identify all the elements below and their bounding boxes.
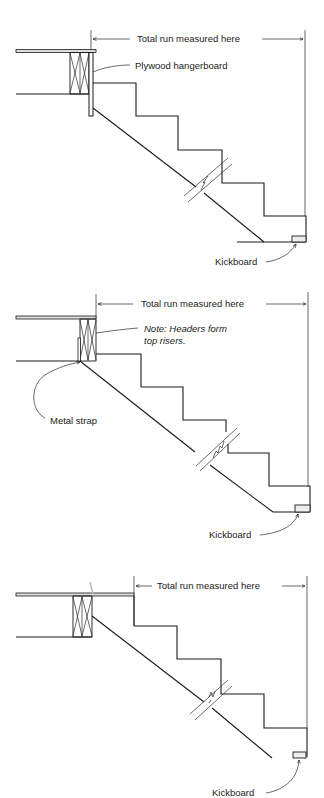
kickboard-label-2: Kickboard bbox=[209, 529, 251, 540]
metal-strap-label: Metal strap bbox=[50, 415, 97, 426]
figure-3-ledger-stair: Total run measured here Kickboard bbox=[16, 576, 307, 798]
stair-steps-2 bbox=[96, 354, 310, 512]
total-run-label-3: Total run measured here bbox=[157, 580, 260, 591]
floor-framing-1 bbox=[16, 50, 96, 117]
kickboard-label-1: Kickboard bbox=[215, 256, 257, 267]
plywood-hangerboard-label: Plywood hangerboard bbox=[135, 60, 227, 71]
header-note-line2: top risers. bbox=[144, 335, 186, 346]
plywood-hangerboard bbox=[89, 53, 93, 117]
header-note-line1: Note: Headers form bbox=[144, 323, 227, 334]
kickboard-label-3: Kickboard bbox=[212, 787, 254, 798]
metal-strap bbox=[78, 338, 81, 361]
floor-framing-3 bbox=[16, 582, 134, 637]
total-run-dimension-2: Total run measured here bbox=[96, 292, 308, 487]
total-run-dimension-3: Total run measured here bbox=[134, 576, 307, 728]
stair-steps-3 bbox=[134, 596, 307, 757]
total-run-dimension-1: Total run measured here bbox=[91, 30, 305, 216]
floor-framing-2 bbox=[16, 316, 96, 361]
stringer-3 bbox=[92, 616, 272, 758]
stair-diagrams: Total run measured here Plywood hangerbo… bbox=[0, 0, 324, 798]
stringer-2 bbox=[80, 361, 273, 512]
kickboard-1 bbox=[292, 236, 306, 242]
figure-2-header-riser-stair: Total run measured here Note: Headers fo… bbox=[16, 292, 310, 540]
figure-1-hangerboard-stair: Total run measured here Plywood hangerbo… bbox=[16, 30, 306, 267]
stair-steps-1 bbox=[93, 83, 306, 242]
kickboard-3 bbox=[293, 752, 306, 758]
total-run-label-2: Total run measured here bbox=[141, 298, 244, 309]
total-run-label-1: Total run measured here bbox=[137, 33, 240, 44]
kickboard-2 bbox=[295, 505, 310, 512]
